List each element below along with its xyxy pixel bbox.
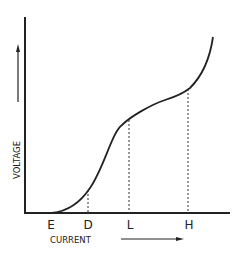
current-arrow-icon	[121, 237, 184, 241]
y-axis-label: VOLTAGE	[12, 141, 22, 179]
voltage-current-diagram: E D L H CURRENT VOLTAGE	[0, 0, 247, 258]
label-l: L	[127, 218, 134, 232]
voltage-arrow-icon	[16, 44, 20, 102]
x-axis-label: CURRENT	[50, 235, 92, 245]
label-h: H	[184, 218, 193, 232]
characteristic-curve	[52, 37, 213, 213]
label-d: D	[83, 218, 92, 232]
label-e: E	[47, 218, 55, 232]
